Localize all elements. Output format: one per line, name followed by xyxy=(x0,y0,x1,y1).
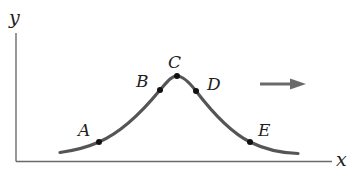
pulse-diagram: y x A B C D E xyxy=(0,0,348,173)
point-a-marker xyxy=(96,139,102,145)
point-a-label: A xyxy=(76,120,90,140)
y-axis-label: y xyxy=(8,6,20,28)
point-c-label: C xyxy=(168,52,181,72)
point-d-label: D xyxy=(206,74,221,94)
point-c-marker xyxy=(174,73,180,79)
point-e-label: E xyxy=(257,120,271,140)
point-b-label: B xyxy=(135,71,149,91)
x-axis-label: x xyxy=(336,148,347,170)
point-d-marker xyxy=(193,88,199,94)
right-arrow-icon xyxy=(260,79,306,90)
point-e-marker xyxy=(247,139,253,145)
point-b-marker xyxy=(157,87,163,93)
pulse-curve xyxy=(60,76,298,154)
